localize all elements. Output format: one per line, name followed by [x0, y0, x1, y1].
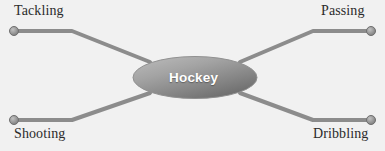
branch-label-shooting[interactable]: Shooting — [14, 126, 65, 142]
branch-line-passing — [240, 31, 371, 62]
mind-map-canvas: Tackling Passing Shooting Dribbling Hock… — [0, 0, 385, 151]
branch-line-tackling — [14, 31, 150, 62]
branch-label-dribbling[interactable]: Dribbling — [313, 126, 368, 142]
center-node-label[interactable]: Hockey — [169, 70, 218, 85]
endpoint-dot-tackling[interactable] — [10, 27, 19, 36]
endpoint-dot-passing[interactable] — [367, 27, 376, 36]
branch-label-tackling[interactable]: Tackling — [14, 3, 64, 19]
endpoint-dot-shooting[interactable] — [10, 116, 19, 125]
endpoint-dot-dribbling[interactable] — [367, 116, 376, 125]
branch-label-passing[interactable]: Passing — [321, 3, 365, 19]
branch-line-dribbling — [240, 93, 371, 120]
branch-line-shooting — [14, 93, 150, 120]
